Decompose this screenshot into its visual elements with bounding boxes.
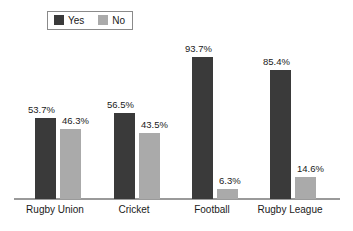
category-label-football: Football [167,204,257,216]
bar-yes-rugby-union [35,118,56,199]
value-label-yes-football: 93.7% [185,44,212,54]
bar-yes-football [192,57,213,199]
value-label-yes-rugby-union: 53.7% [28,105,55,115]
plot-area: 53.7%46.3%56.5%43.5%93.7%6.3%85.4%14.6% … [0,0,353,231]
bar-no-rugby-league [295,177,316,199]
bar-chart: Yes No 53.7%46.3%56.5%43.5%93.7%6.3%85.4… [0,0,353,231]
bar-no-football [217,189,238,199]
value-label-no-cricket: 43.5% [141,120,168,130]
bar-no-rugby-union [60,129,81,199]
value-label-no-rugby-union: 46.3% [62,116,89,126]
category-label-cricket: Cricket [89,204,179,216]
bar-no-cricket [139,133,160,199]
value-label-yes-cricket: 56.5% [107,100,134,110]
value-label-no-rugby-league: 14.6% [297,164,324,174]
category-label-rugby-union: Rugby Union [10,204,100,216]
bar-yes-cricket [114,113,135,199]
category-label-rugby-league: Rugby League [245,204,335,216]
bar-yes-rugby-league [270,70,291,199]
value-label-yes-rugby-league: 85.4% [263,57,290,67]
value-label-no-football: 6.3% [219,176,241,186]
